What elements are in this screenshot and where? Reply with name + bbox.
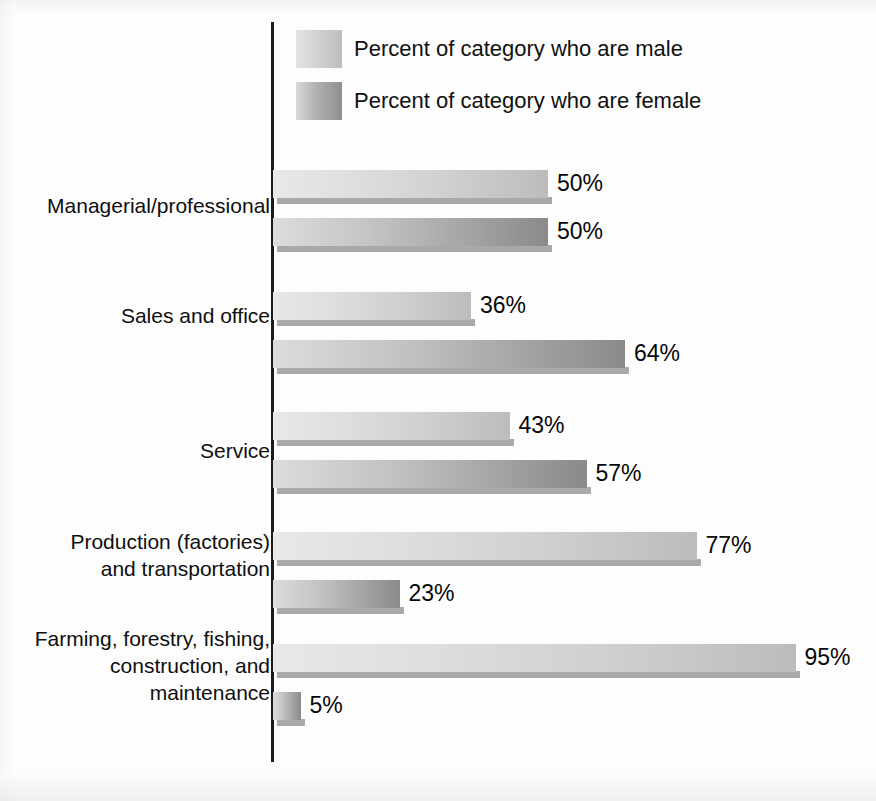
bar-male[interactable]	[273, 532, 703, 566]
category-label: Production (factories) and transportatio…	[0, 528, 270, 582]
bar-fill	[273, 532, 697, 560]
bar-shadow	[277, 367, 629, 374]
bar-shadow	[277, 319, 475, 326]
gender-by-occupation-bar-chart: Percent of category who are male Percent…	[0, 0, 876, 801]
bar-value-label: 64%	[634, 339, 680, 368]
category-label: Service	[0, 437, 270, 464]
bar-shadow	[277, 671, 800, 678]
bar-fill	[273, 692, 301, 720]
bar-female[interactable]	[273, 460, 593, 494]
bar-value-label: 23%	[409, 579, 455, 608]
bar-value-label: 50%	[557, 169, 603, 198]
bar-shadow	[277, 719, 305, 726]
bar-female[interactable]	[273, 692, 307, 726]
bar-female[interactable]	[273, 580, 406, 614]
bar-fill	[273, 580, 400, 608]
bar-female[interactable]	[273, 218, 554, 252]
bar-fill	[273, 170, 548, 198]
bar-male[interactable]	[273, 644, 802, 678]
bar-shadow	[277, 559, 701, 566]
bar-shadow	[277, 245, 552, 252]
bar-female[interactable]	[273, 340, 631, 374]
bar-male[interactable]	[273, 170, 554, 204]
bar-value-label: 36%	[480, 291, 526, 320]
plot-area: Managerial/professional50%50%Sales and o…	[0, 0, 876, 801]
bar-value-label: 77%	[706, 531, 752, 560]
bar-value-label: 95%	[805, 643, 851, 672]
bar-shadow	[277, 607, 404, 614]
bar-fill	[273, 340, 625, 368]
bar-value-label: 43%	[519, 411, 565, 440]
bar-fill	[273, 412, 510, 440]
bar-fill	[273, 218, 548, 246]
bar-shadow	[277, 487, 591, 494]
bar-fill	[273, 644, 796, 672]
bar-fill	[273, 460, 587, 488]
bar-value-label: 5%	[310, 691, 343, 720]
bar-male[interactable]	[273, 412, 516, 446]
category-label: Sales and office	[0, 302, 270, 329]
category-label: Farming, forestry, fishing, construction…	[0, 625, 270, 706]
bar-fill	[273, 292, 471, 320]
category-label: Managerial/professional	[0, 192, 270, 219]
bar-shadow	[277, 439, 514, 446]
bar-value-label: 50%	[557, 217, 603, 246]
bar-male[interactable]	[273, 292, 477, 326]
bar-value-label: 57%	[596, 459, 642, 488]
bar-shadow	[277, 197, 552, 204]
